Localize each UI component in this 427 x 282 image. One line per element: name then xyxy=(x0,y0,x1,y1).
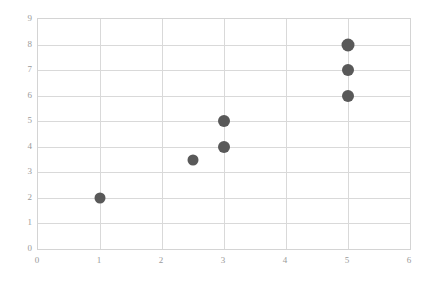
data-point xyxy=(218,141,230,153)
x-axis-tick-label: 4 xyxy=(265,256,305,265)
x-axis-tick-labels: 0123456 xyxy=(37,256,411,270)
y-axis-tick-label: 0 xyxy=(6,244,32,253)
y-axis-tick-label: 3 xyxy=(6,167,32,176)
data-point xyxy=(95,192,106,203)
y-axis-tick-labels: 0123456789 xyxy=(0,18,32,250)
y-axis-tick-label: 2 xyxy=(6,192,32,201)
y-axis-tick-label: 5 xyxy=(6,116,32,125)
x-axis-tick-label: 6 xyxy=(389,256,427,265)
y-axis-tick-label: 8 xyxy=(6,39,32,48)
gridline-vertical xyxy=(286,19,287,249)
y-axis-tick-label: 6 xyxy=(6,90,32,99)
y-axis-tick-label: 1 xyxy=(6,218,32,227)
data-point xyxy=(188,154,199,165)
scatter-chart: 0123456789 0123456 xyxy=(0,0,427,282)
data-point xyxy=(342,90,354,102)
gridline-vertical xyxy=(162,19,163,249)
y-axis-tick-label: 4 xyxy=(6,141,32,150)
x-axis-tick-label: 3 xyxy=(203,256,243,265)
gridline-vertical xyxy=(224,19,225,249)
y-axis-tick-label: 9 xyxy=(6,14,32,23)
y-axis-tick-label: 7 xyxy=(6,65,32,74)
plot-area xyxy=(37,18,411,250)
x-axis-tick-label: 5 xyxy=(327,256,367,265)
gridline-vertical xyxy=(348,19,349,249)
data-point xyxy=(342,64,354,76)
data-point xyxy=(218,115,230,127)
data-point xyxy=(342,38,355,51)
gridline-vertical xyxy=(100,19,101,249)
x-axis-tick-label: 1 xyxy=(79,256,119,265)
x-axis-tick-label: 0 xyxy=(17,256,57,265)
x-axis-tick-label: 2 xyxy=(141,256,181,265)
